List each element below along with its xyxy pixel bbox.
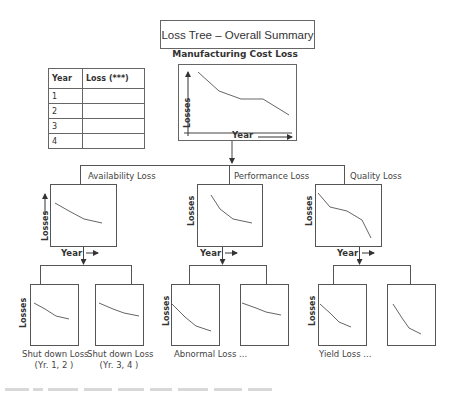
shutdown-1-2-label-line2: (Yr. 1, 2 ): [22, 360, 86, 371]
root-curve: [198, 72, 289, 115]
figure-caption-faint: [0, 378, 458, 386]
performance-loss-label: Performance Loss: [234, 171, 309, 181]
shutdown-y-axis-label: Losses: [19, 298, 28, 328]
yield-loss-chart-box: [319, 285, 367, 346]
quality-child-2-chart-box: [388, 285, 436, 346]
root-x-axis-label: Year: [232, 130, 253, 140]
quality-chart-box: [316, 185, 382, 247]
shutdown-3-4-label-line1: Shut down Loss: [87, 349, 151, 360]
abnormal-loss-chart-box: [172, 285, 220, 346]
availability-chart-box: [51, 185, 117, 247]
abnormal-y-axis-label: Losses: [162, 296, 171, 326]
quality-y-axis-label: Losses: [305, 196, 314, 226]
abnormal-loss-label: Abnormal Loss ...: [174, 349, 247, 360]
shutdown-3-4-label: Shut down Loss (Yr. 3, 4 ): [87, 349, 151, 371]
quality-loss-label: Quality Loss: [350, 171, 402, 181]
performance-child-2-chart-box: [241, 285, 289, 346]
root-y-axis-label: Losses: [183, 98, 192, 128]
yield-y-axis-label: Losses: [308, 296, 317, 326]
yield-loss-label: Yield Loss ...: [319, 349, 371, 360]
availability-loss-label: Availability Loss: [88, 171, 156, 181]
shutdown-1-2-label-line1: Shut down Loss: [22, 349, 86, 360]
performance-chart-box: [198, 185, 263, 247]
shutdown-3-4-label-line2: (Yr. 3, 4 ): [87, 360, 151, 371]
performance-x-axis-label: Year: [200, 248, 221, 258]
caption-placeholder: [0, 385, 458, 393]
performance-y-axis-label: Losses: [187, 196, 196, 226]
quality-x-axis-label: Year: [337, 248, 358, 258]
availability-y-axis-label: Losses: [41, 211, 50, 241]
shutdown-1-2-label: Shut down Loss (Yr. 1, 2 ): [22, 349, 86, 371]
availability-x-axis-label: Year: [61, 248, 82, 258]
